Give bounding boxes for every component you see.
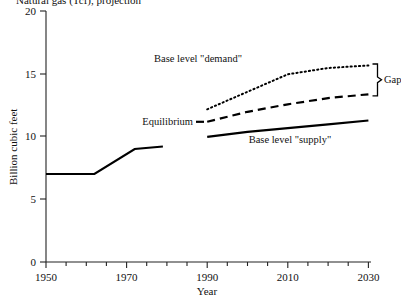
annotation-supply: Base level "supply" xyxy=(249,134,332,145)
series-base-level-demand xyxy=(207,66,368,110)
x-axis-tick-labels: 1950 1970 1990 2010 2030 xyxy=(35,271,380,283)
y-tick-label: 10 xyxy=(25,130,37,142)
y-axis-title: Billion cubic feet xyxy=(7,109,19,185)
y-tick-label: 15 xyxy=(25,68,37,80)
x-axis-ticks xyxy=(46,262,368,268)
gap-bracket xyxy=(373,64,382,96)
y-axis-ticks xyxy=(40,11,46,262)
y-axis-tick-labels: 20 15 10 5 0 xyxy=(25,5,37,268)
y-tick-label: 5 xyxy=(31,193,37,205)
x-tick-label: 1950 xyxy=(35,271,58,283)
x-axis-title: Year xyxy=(197,285,218,297)
chart-figure: Natural gas (Tcf), projection 20 15 10 5… xyxy=(0,0,401,297)
x-tick-label: 2010 xyxy=(277,271,300,283)
chart-svg: Natural gas (Tcf), projection 20 15 10 5… xyxy=(0,0,401,297)
x-tick-label: 1990 xyxy=(196,271,219,283)
annotation-equilibrium: Equilibrium xyxy=(142,116,193,127)
annotation-demand: Base level "demand" xyxy=(154,53,242,64)
x-tick-label: 2030 xyxy=(357,271,380,283)
series-historical xyxy=(46,147,163,175)
annotation-gap: Gap xyxy=(384,74,401,85)
y-tick-label: 20 xyxy=(25,5,37,17)
x-tick-label: 1970 xyxy=(116,271,139,283)
y-tick-label: 0 xyxy=(31,256,37,268)
